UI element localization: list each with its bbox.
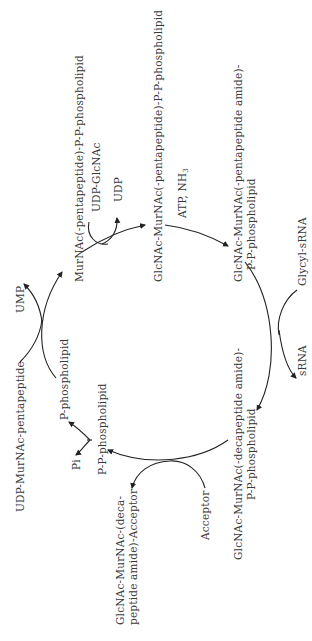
- output-product-line2: peptide amide)-Acceptor: [127, 489, 139, 625]
- arrow-n4-to-n5: [108, 440, 228, 460]
- peptidoglycan-cycle-diagram: MurNAc(-pentapeptide)-P-P-phospholipid G…: [0, 0, 312, 641]
- arrow-udp-out: [102, 218, 117, 244]
- input-udp-murnac-pentapeptide: UDP-MurNAc-pentapeptide: [14, 361, 26, 512]
- output-udp: UDP: [112, 177, 124, 202]
- node-decapeptide-amide-line1: GlcNAc-MurNAc(-decapeptide amide)-: [232, 348, 244, 560]
- input-acceptor: Acceptor: [199, 491, 211, 540]
- output-srna: sRNA: [296, 345, 308, 376]
- arrow-product-out: [132, 461, 170, 488]
- node-glcnac-murnac-pentapeptide-pp-phospholipid: GlcNAc-MurNAc(-pentapeptide)-P-P-phospho…: [152, 10, 164, 282]
- input-atp-nh3: ATP, NH3: [176, 168, 192, 218]
- node-murnac-pentapeptide-pp-phospholipid: MurNAc(-pentapeptide)-P-P-phospholipid: [73, 55, 85, 282]
- arrow-n1-to-n2: [82, 225, 145, 252]
- arrow-to-pphospholipid: [69, 422, 90, 440]
- node-pentapeptide-amide-line2: P-P-phospholipid: [245, 178, 257, 270]
- arrow-ump-out: [24, 284, 42, 322]
- arrow-n2-to-n3: [165, 225, 228, 246]
- arrow-udp-glcnac-in: [88, 222, 108, 244]
- node-p-phospholipid: P-phospholipid: [58, 339, 70, 420]
- arrow-acceptor-in: [170, 461, 205, 488]
- node-pp-phospholipid: P-P-phospholipid: [96, 383, 108, 475]
- output-pi: Pi: [70, 459, 82, 470]
- arrow-udp-murnac-in: [20, 320, 42, 362]
- arrow-glycyl-in: [278, 290, 297, 335]
- arrow-n3-to-n4: [245, 262, 271, 410]
- node-pentapeptide-amide-line1: GlcNAc-MurNAc(-pentapeptide amide)-: [232, 65, 244, 283]
- node-decapeptide-amide-line2: P-P-phospholipid: [245, 408, 257, 500]
- output-ump: UMP: [14, 286, 26, 313]
- arrow-to-pi: [76, 440, 90, 455]
- arrow-srna-out: [279, 330, 296, 378]
- output-product-line1: GlcNAc-MurNAc-(deca-: [114, 496, 126, 625]
- input-glycyl-srna: Glycyl-sRNA: [296, 217, 308, 286]
- input-udp-glcnac: UDP-GlcNAc: [90, 142, 102, 212]
